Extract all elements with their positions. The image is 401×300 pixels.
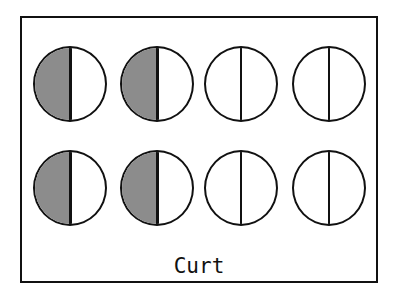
card-frame: Curt [20, 16, 378, 283]
disc-divider-line [69, 152, 72, 224]
disc-divider-line [328, 48, 330, 120]
disc-shade [122, 48, 157, 120]
disc-empty [204, 150, 278, 226]
disc-empty [292, 46, 366, 122]
disc-divider-line [240, 48, 242, 120]
disc-shade [35, 48, 70, 120]
disc-divider-line [156, 152, 159, 224]
disc-empty [292, 150, 366, 226]
disc-divider-line [156, 48, 159, 120]
disc-divider-line [240, 152, 242, 224]
disc-half-shaded [120, 150, 194, 226]
disc-shade [122, 152, 157, 224]
disc-divider-line [328, 152, 330, 224]
disc-shade [35, 152, 70, 224]
disc-half-shaded [33, 46, 107, 122]
disc-empty [204, 46, 278, 122]
disc-half-shaded [120, 46, 194, 122]
card-label: Curt [22, 254, 376, 278]
disc-divider-line [69, 48, 72, 120]
disc-half-shaded [33, 150, 107, 226]
